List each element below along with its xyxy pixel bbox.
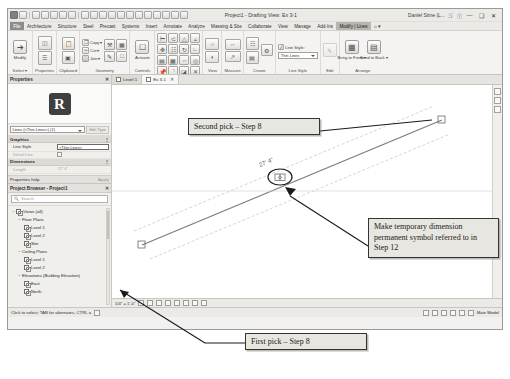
view-tab-level-1[interactable]: Level 1 <box>112 75 142 84</box>
create-part-icon[interactable]: ▤ <box>246 51 259 64</box>
pin-icon[interactable]: 📌 <box>157 66 167 75</box>
crop-view-icon[interactable] <box>183 300 189 306</box>
tree-item-floor-plan-site[interactable]: Site <box>11 240 111 248</box>
ribbon-tab-architecture[interactable]: Architecture <box>24 22 55 30</box>
user-name[interactable]: Daniel Stine (L... <box>408 12 445 18</box>
close-icon[interactable]: ✕ <box>170 77 174 82</box>
geometry-join[interactable]: ◫ Join ▾ <box>82 55 102 62</box>
properties-icon[interactable]: ◫ <box>38 36 52 50</box>
ribbon-tab-systems[interactable]: Systems <box>119 22 143 30</box>
tree-item-views-all[interactable]: − Views (all) <box>11 208 111 216</box>
close-icon[interactable]: ✕ <box>105 185 109 191</box>
paint-icon[interactable]: ✎ <box>104 51 115 62</box>
split-icon[interactable]: ▦ <box>168 55 178 65</box>
view-control-bar[interactable]: 1/4" = 1'-0" <box>112 298 502 307</box>
line-style-dropdown[interactable]: Thin Lines <box>278 52 318 59</box>
tree-item-elevations[interactable]: − Elevations (Building Elevation) <box>11 272 111 280</box>
view-scale-label[interactable]: 1/4" = 1'-0" <box>115 301 135 306</box>
rotate-icon[interactable]: ↻ <box>179 44 189 54</box>
activate-button[interactable]: ☐ Activate <box>132 40 152 60</box>
close-icon[interactable]: ✕ <box>105 76 109 82</box>
copy-move-icon[interactable]: ☷ <box>168 44 178 54</box>
panel-label-measure[interactable]: Measure <box>224 67 240 74</box>
move-icon[interactable]: ✥ <box>157 44 167 54</box>
show-hidden-icon[interactable]: ☼ <box>205 38 219 50</box>
ribbon-tab-precast[interactable]: Precast <box>97 22 119 30</box>
ribbon-tab-collaborate[interactable]: Collaborate <box>245 22 275 30</box>
panel-label-arrange[interactable]: Arrange <box>355 67 370 74</box>
properties-help-link[interactable]: Properties help <box>10 177 40 182</box>
demolish-icon[interactable]: ⚒ <box>104 39 115 50</box>
shadows-icon[interactable] <box>165 300 171 306</box>
drawing-canvas[interactable]: 27' 4" <box>112 85 502 298</box>
offset-icon[interactable]: ⊂ <box>168 33 178 43</box>
paste-icon[interactable]: 📋 <box>62 37 75 50</box>
tree-item-elevation-north[interactable]: North <box>11 288 111 296</box>
render-icon[interactable] <box>174 300 180 306</box>
analytical-model-icon[interactable] <box>201 300 207 306</box>
redo-icon[interactable] <box>68 11 76 19</box>
tag-icon[interactable] <box>108 11 116 19</box>
text-icon[interactable] <box>117 11 125 19</box>
edit-sketch-icon[interactable]: ✎ <box>323 43 337 57</box>
aligned-dimension-icon[interactable] <box>99 11 107 19</box>
property-row-detail-line[interactable]: Detail Line <box>8 152 111 159</box>
ribbon-tab-steel[interactable]: Steel <box>80 22 97 30</box>
drag-elements-icon[interactable] <box>94 310 100 316</box>
collapse-icon[interactable]: ⋮ <box>105 137 109 142</box>
open-icon[interactable] <box>32 11 40 19</box>
default-3d-view-icon[interactable] <box>135 11 143 19</box>
panel-label-geometry[interactable]: Geometry <box>96 67 114 74</box>
ribbon-tab-bar[interactable]: File Architecture Structure Steel Precas… <box>8 22 502 31</box>
geometry-cut[interactable]: ✂ Cut ▾ <box>82 47 102 54</box>
view-tab-bar[interactable]: Level 1 Ex 3-1 ✕ <box>112 75 502 85</box>
detail-level-icon[interactable] <box>138 300 144 306</box>
zoom-tools-icon[interactable] <box>494 97 501 104</box>
measure-icon[interactable] <box>90 11 98 19</box>
match-type-icon[interactable]: ▣ <box>62 51 75 64</box>
project-browser-tree[interactable]: − Views (all) − Floor Plans Level 1 <box>8 206 111 308</box>
hide-reveal-icon[interactable]: ◐ <box>205 51 219 63</box>
undo-icon[interactable] <box>59 11 67 19</box>
scale-icon[interactable]: ↔ <box>179 55 189 65</box>
type-properties-icon[interactable]: ☰ <box>38 51 52 65</box>
switch-window-icon[interactable] <box>171 11 179 19</box>
measure-icon[interactable]: ↔ <box>225 39 241 50</box>
panel-label-controls[interactable]: Controls <box>135 67 151 74</box>
split-face-icon[interactable]: ▦ <box>116 39 127 50</box>
mirror-pick-icon[interactable]: △ <box>179 33 189 43</box>
panel-label-properties[interactable]: Properties <box>35 67 54 74</box>
type-selector-dropdown[interactable]: Lines (<Thin Lines>) (1) <box>10 126 85 134</box>
delete-icon[interactable]: ✕ <box>190 66 200 75</box>
thin-lines-icon[interactable] <box>153 11 161 19</box>
ribbon-tab-manage[interactable]: Manage <box>291 22 314 30</box>
ribbon-tab-annotate[interactable]: Annotate <box>160 22 185 30</box>
ribbon-tab-modify-lines[interactable]: Modify | Lines <box>336 22 371 30</box>
split-element-icon[interactable]: ◪ <box>179 66 189 75</box>
project-browser-scrollbar[interactable] <box>106 208 110 306</box>
tree-item-ceiling-plan-level-2[interactable]: Level 2 <box>11 264 111 272</box>
ribbon-tab-insert[interactable]: Insert <box>143 22 161 30</box>
minimize-button[interactable]: — <box>465 12 474 18</box>
panel-label-view[interactable]: View <box>208 67 217 74</box>
unpin-icon[interactable]: ◎ <box>190 55 200 65</box>
tree-item-floor-plans[interactable]: − Floor Plans <box>11 216 111 224</box>
save-as-icon[interactable] <box>50 11 58 19</box>
customize-icon[interactable] <box>180 11 188 19</box>
make-dimension-permanent-icon[interactable] <box>275 174 285 181</box>
array-icon[interactable]: ▤ <box>157 55 167 65</box>
mirror-axis-icon[interactable]: ▵ <box>190 33 200 43</box>
navigation-wheel-icon[interactable] <box>494 88 501 95</box>
edit-type-button[interactable]: Edit Type <box>86 126 109 134</box>
crop-region-icon[interactable] <box>192 300 198 306</box>
quick-access-toolbar[interactable] <box>10 11 188 19</box>
wall-joins-icon[interactable]: □ <box>116 51 127 62</box>
visual-style-icon[interactable] <box>147 300 153 306</box>
send-to-back-button[interactable]: ▤ Send to Back ▾ <box>364 40 384 60</box>
sun-path-icon[interactable] <box>156 300 162 306</box>
measure-between-icon[interactable]: ↗ <box>225 51 241 62</box>
property-row-line-style[interactable]: Line Style <Thin Lines> <box>8 143 111 152</box>
warning-icon[interactable] <box>468 310 474 316</box>
ribbon-tab-analyze[interactable]: Analyze <box>185 22 208 30</box>
tree-item-ceiling-plan-level-1[interactable]: Level 1 <box>11 256 111 264</box>
